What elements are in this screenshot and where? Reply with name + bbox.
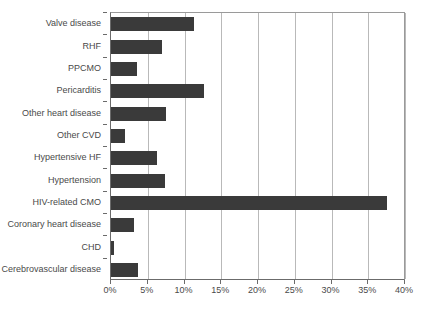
category-axis-label: Hypertensive HF: [34, 152, 101, 162]
y-axis-tick: [103, 146, 107, 147]
x-axis-tick-label: 0%: [103, 285, 116, 296]
plot-area: [110, 12, 405, 280]
x-axis-tick-label: 25%: [285, 285, 303, 296]
category-axis-label: Hypertension: [48, 175, 101, 185]
bar: [111, 107, 166, 121]
x-axis-tick: [110, 280, 111, 284]
category-axis: Valve diseaseRHFPPCMOPericarditisOther h…: [0, 12, 107, 280]
category-axis-label: Coronary heart disease: [7, 219, 101, 229]
bar: [111, 129, 125, 143]
y-axis-tick: [103, 34, 107, 35]
y-axis-tick: [103, 168, 107, 169]
y-axis-tick: [103, 124, 107, 125]
category-axis-label: Other heart disease: [22, 108, 101, 118]
y-axis-tick: [103, 258, 107, 259]
x-axis-tick: [184, 280, 185, 284]
bar-chart: Valve diseaseRHFPPCMOPericarditisOther h…: [0, 0, 428, 314]
bar: [111, 62, 137, 76]
category-axis-label: RHF: [83, 41, 102, 51]
category-axis-label: CHD: [82, 242, 102, 252]
x-axis-tick-label: 15%: [211, 285, 229, 296]
x-axis-tick: [147, 280, 148, 284]
bar: [111, 40, 162, 54]
y-axis-tick: [103, 57, 107, 58]
gridline: [405, 13, 406, 279]
x-axis-tick: [257, 280, 258, 284]
x-axis-tick: [294, 280, 295, 284]
y-axis-tick: [103, 79, 107, 80]
bar: [111, 196, 387, 210]
x-axis-tick: [404, 280, 405, 284]
category-axis-label: Other CVD: [57, 130, 101, 140]
bar: [111, 218, 134, 232]
bar: [111, 241, 114, 255]
y-axis-tick: [103, 12, 107, 13]
x-axis-tick: [367, 280, 368, 284]
category-axis-label: PPCMO: [68, 63, 101, 73]
x-axis-tick-label: 10%: [174, 285, 192, 296]
x-axis-tick-label: 35%: [358, 285, 376, 296]
y-axis-tick: [103, 213, 107, 214]
x-axis-tick-label: 5%: [140, 285, 153, 296]
y-axis-tick: [103, 235, 107, 236]
x-axis-tick: [220, 280, 221, 284]
y-axis-tick: [103, 191, 107, 192]
category-axis-label: Pericarditis: [56, 85, 101, 95]
category-axis-label: Cerebrovascular disease: [1, 264, 101, 274]
bar: [111, 17, 194, 31]
y-axis-tick: [103, 101, 107, 102]
x-axis-tick-label: 20%: [248, 285, 266, 296]
bar: [111, 174, 165, 188]
bar: [111, 151, 157, 165]
x-axis-tick-labels: 0%5%10%15%20%25%30%35%40%: [110, 285, 406, 299]
category-axis-label: Valve disease: [46, 18, 101, 28]
category-axis-label: HIV-related CMO: [32, 197, 101, 207]
bar: [111, 263, 138, 277]
bar-series: [111, 13, 404, 279]
x-axis-tick-label: 40%: [395, 285, 413, 296]
bar: [111, 84, 204, 98]
x-axis-tick: [331, 280, 332, 284]
x-axis-tick-label: 30%: [321, 285, 339, 296]
